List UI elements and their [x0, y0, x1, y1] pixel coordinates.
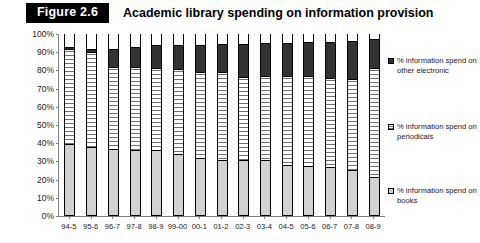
legend-label: % information spend on periodicals [397, 122, 480, 143]
x-axis-tick-mark [178, 216, 179, 219]
x-axis-tick: 99-00 [167, 216, 189, 242]
stacked-bar[interactable] [173, 34, 184, 216]
bar-slot [320, 34, 342, 216]
stacked-bar[interactable] [64, 34, 75, 216]
stacked-bar[interactable] [86, 34, 97, 216]
bar-segment-books [239, 161, 248, 217]
bar-segment-electronic [304, 42, 313, 77]
bar-segment-books [304, 167, 313, 216]
bar-segment-electronic [218, 44, 227, 73]
stacked-bar[interactable] [282, 34, 293, 216]
stacked-bar[interactable] [325, 34, 336, 216]
bar-group [59, 34, 385, 216]
bar-slot [81, 34, 103, 216]
x-axis-tick: 07-8 [341, 216, 363, 242]
stacked-bar[interactable] [108, 34, 119, 216]
bar-slot [298, 34, 320, 216]
bar-segment-books [174, 155, 183, 216]
bar-segment-periodicals [196, 73, 205, 159]
figure-title-bar: Figure 2.6 Academic library spending on … [0, 0, 480, 26]
x-axis-tick-label: 98-9 [148, 222, 163, 231]
x-axis-tick: 08-9 [362, 216, 384, 242]
bar-slot [168, 34, 190, 216]
bar-segment-books [65, 145, 74, 216]
bar-segment-periodicals [152, 69, 161, 152]
bar-segment-periodicals [348, 80, 357, 170]
x-axis-tick: 98-9 [145, 216, 167, 242]
stacked-bar[interactable] [238, 34, 249, 216]
bar-segment-books [370, 178, 379, 216]
bar-segment-electronic [152, 45, 161, 69]
stacked-bar[interactable] [151, 34, 162, 216]
bar-segment-periodicals [87, 53, 96, 148]
y-axis-tick-label: 20% [37, 175, 54, 185]
chart-plot-area: 100%90%80%70%60%50%40%30%20%10%0% [58, 34, 385, 217]
stacked-bar[interactable] [347, 34, 358, 216]
x-axis-tick-label: 94-5 [61, 222, 76, 231]
bar-slot [276, 34, 298, 216]
y-axis-tick-label: 90% [37, 47, 54, 57]
x-axis-tick-label: 07-8 [344, 222, 359, 231]
x-axis-tick-label: 97-8 [126, 222, 141, 231]
x-axis-tick: 97-8 [123, 216, 145, 242]
bar-segment-electronic [283, 43, 292, 77]
x-axis-tick-mark [69, 216, 70, 219]
x-axis-tick-label: 96-7 [105, 222, 120, 231]
bar-segment-electronic [326, 42, 335, 78]
legend-swatch-icon [388, 58, 394, 64]
bar-segment-books [283, 166, 292, 216]
stacked-bar[interactable] [369, 34, 380, 216]
legend-item[interactable]: % information spend on periodicals [388, 122, 480, 143]
bar-segment-books [196, 159, 205, 216]
bar-segment-periodicals [131, 68, 140, 152]
figure-number-badge: Figure 2.6 [26, 3, 109, 23]
x-axis-tick: 00-1 [188, 216, 210, 242]
bar-segment-periodicals [261, 77, 270, 161]
bar-segment-periodicals [218, 73, 227, 160]
stacked-bar[interactable] [195, 34, 206, 216]
y-axis-tick-label: 100% [32, 29, 54, 39]
y-axis-tick-label: 70% [37, 84, 54, 94]
stacked-bar[interactable] [130, 34, 141, 216]
stacked-bar[interactable] [217, 34, 228, 216]
legend-item[interactable]: % information spend on other electronic [388, 56, 480, 77]
x-axis-tick-label: 02-3 [235, 222, 250, 231]
bar-segment-periodicals [109, 68, 118, 151]
legend-item[interactable]: % information spend on books [388, 186, 480, 207]
x-axis-tick: 02-3 [232, 216, 254, 242]
bar-segment-electronic [131, 47, 140, 68]
bar-segment-books [218, 161, 227, 217]
x-axis-tick-label: 04-5 [279, 222, 294, 231]
legend-label: % information spend on other electronic [397, 56, 480, 77]
x-axis-tick-label: 08-9 [366, 222, 381, 231]
stacked-bar[interactable] [260, 34, 271, 216]
bar-segment-periodicals [174, 70, 183, 155]
bar-segment-electronic [370, 39, 379, 68]
bar-segment-periodicals [239, 78, 248, 161]
bar-segment-electronic [109, 49, 118, 68]
x-axis-tick: 06-7 [319, 216, 341, 242]
y-axis-tick-label: 80% [37, 65, 54, 75]
x-axis-tick: 04-5 [275, 216, 297, 242]
x-axis-tick-label: 01-2 [213, 222, 228, 231]
x-axis-tick-label: 06-7 [322, 222, 337, 231]
bar-slot [59, 34, 81, 216]
bar-segment-periodicals [283, 77, 292, 166]
x-axis-tick-label: 05-6 [300, 222, 315, 231]
bar-slot [233, 34, 255, 216]
x-axis-tick-mark [134, 216, 135, 219]
legend-label: % information spend on books [397, 186, 480, 207]
x-axis-tick: 03-4 [254, 216, 276, 242]
x-axis-tick: 01-2 [210, 216, 232, 242]
bar-segment-periodicals [65, 50, 74, 145]
bar-segment-books [131, 151, 140, 216]
bar-segment-electronic [174, 45, 183, 70]
bar-segment-electronic [196, 45, 205, 73]
x-axis-tick-mark [264, 216, 265, 219]
bar-segment-books [348, 171, 357, 217]
x-axis-tick-mark [221, 216, 222, 219]
stacked-bar[interactable] [303, 34, 314, 216]
legend-swatch-icon [388, 188, 394, 194]
x-axis: 94-595-696-797-898-999-0000-101-202-303-… [58, 216, 384, 242]
bar-segment-periodicals [326, 79, 335, 168]
